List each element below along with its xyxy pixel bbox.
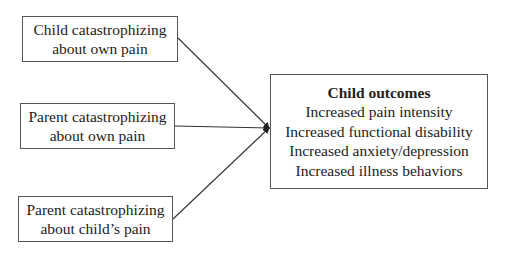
node-child-outcomes: Child outcomes Increased pain intensity … [270,74,488,189]
outcomes-title: Child outcomes [328,83,431,103]
node-parent-catastrophizing-child-pain: Parent catastrophizing about child’s pai… [18,196,173,242]
outcome-item: Increased anxiety/depression [289,141,468,161]
arrow-parent-own-pain [175,126,269,128]
node-label-line1: Parent catastrophizing [26,200,164,219]
node-child-catastrophizing-own-pain: Child catastrophizing about own pain [22,16,178,62]
outcome-item: Increased functional disability [285,122,473,142]
node-label-line1: Parent catastrophizing [28,107,166,126]
node-label-line1: Child catastrophizing [33,20,166,39]
arrow-parent-child-pain [173,128,269,219]
outcome-item: Increased pain intensity [305,102,452,122]
node-label-line2: about own pain [50,126,146,145]
outcome-item: Increased illness behaviors [296,161,463,181]
node-label-line2: about child’s pain [40,219,150,238]
arrow-child-own-pain [178,38,269,128]
node-parent-catastrophizing-own-pain: Parent catastrophizing about own pain [20,103,175,149]
node-label-line2: about own pain [52,39,148,58]
